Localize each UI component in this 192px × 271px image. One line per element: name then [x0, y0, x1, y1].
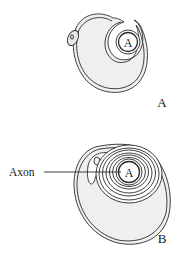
panel-a [65, 14, 147, 92]
panel-b [44, 144, 170, 244]
axon-letter-b: A [125, 166, 134, 180]
axon-callout-label: Axon [9, 166, 35, 178]
myelination-diagram: A A A Axon B [0, 0, 192, 271]
panel-label-b: B [158, 231, 167, 246]
panel-label-a: A [157, 95, 167, 110]
axon-letter-a: A [124, 36, 133, 50]
